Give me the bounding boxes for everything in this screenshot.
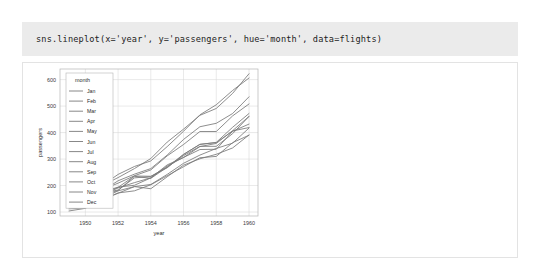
legend-label-may: May — [87, 128, 97, 134]
code-cell[interactable]: sns.lineplot(x='year', y='passengers', h… — [22, 22, 518, 56]
code-source-text: sns.lineplot(x='year', y='passengers', h… — [22, 34, 382, 44]
legend-label-apr: Apr — [87, 118, 95, 124]
y-tick-200: 200 — [47, 183, 56, 189]
legend-title: month — [75, 77, 90, 83]
y-tick-100: 100 — [47, 209, 56, 215]
legend-label-aug: Aug — [87, 159, 96, 165]
notebook-output-panel: 195019521954195619581960 100200300400500… — [22, 62, 518, 258]
y-axis-tick-labels: 100200300400500600 — [47, 77, 56, 215]
legend-label-mar: Mar — [87, 108, 96, 114]
x-tick-1956: 1956 — [178, 220, 190, 226]
legend-label-dec: Dec — [87, 199, 97, 205]
lineplot-figure: 195019521954195619581960 100200300400500… — [23, 63, 333, 255]
legend-label-jan: Jan — [87, 88, 95, 94]
legend-label-feb: Feb — [87, 98, 96, 104]
x-axis-tick-labels: 195019521954195619581960 — [79, 220, 255, 226]
x-tick-1960: 1960 — [243, 220, 255, 226]
y-tick-500: 500 — [47, 103, 56, 109]
x-tick-1952: 1952 — [112, 220, 124, 226]
y-tick-400: 400 — [47, 130, 56, 136]
chart-legend[interactable]: monthJanFebMarAprMayJunJulAugSepOctNovDe… — [66, 73, 113, 208]
x-tick-1950: 1950 — [79, 220, 91, 226]
legend-label-jun: Jun — [87, 139, 95, 145]
x-tick-1958: 1958 — [210, 220, 222, 226]
y-tick-300: 300 — [47, 156, 56, 162]
legend-label-jul: Jul — [87, 149, 94, 155]
x-axis-title: year — [154, 230, 165, 236]
legend-label-sep: Sep — [87, 169, 96, 175]
x-tick-1954: 1954 — [145, 220, 157, 226]
y-axis-title: passengers — [37, 128, 43, 157]
chart-canvas: 195019521954195619581960 100200300400500… — [23, 63, 333, 255]
y-tick-600: 600 — [47, 77, 56, 83]
legend-label-nov: Nov — [87, 189, 97, 195]
legend-label-oct: Oct — [87, 179, 96, 185]
